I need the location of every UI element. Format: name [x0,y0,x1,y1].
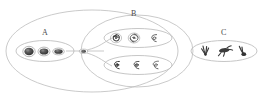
cluster-a-label: A [42,29,48,37]
cluster-b-label: B [131,10,136,18]
object-spiral-2[interactable] [128,33,140,43]
object-spiral-6[interactable] [153,61,158,69]
tree-edges [66,38,112,66]
object-elliptical-3[interactable] [53,48,65,55]
object-irregular-3[interactable] [239,46,246,56]
object-elliptical-1[interactable] [23,46,35,56]
cluster-group-a[interactable] [16,41,74,62]
object-spiral-1[interactable] [110,33,121,43]
root-node[interactable] [79,49,87,53]
object-spiral-3[interactable] [152,35,157,42]
object-irregular-1[interactable] [202,46,209,56]
object-spiral-4[interactable] [114,61,119,68]
cluster-c-label: C [221,29,226,37]
object-elliptical-2[interactable] [38,47,50,56]
object-irregular-2[interactable] [218,46,232,56]
cluster-group-b2[interactable] [104,56,172,75]
cluster-group-c[interactable] [191,41,257,62]
cluster-group-b1[interactable] [104,29,172,48]
diagram-canvas: A B C [0,0,270,101]
object-spiral-5[interactable] [134,61,139,68]
